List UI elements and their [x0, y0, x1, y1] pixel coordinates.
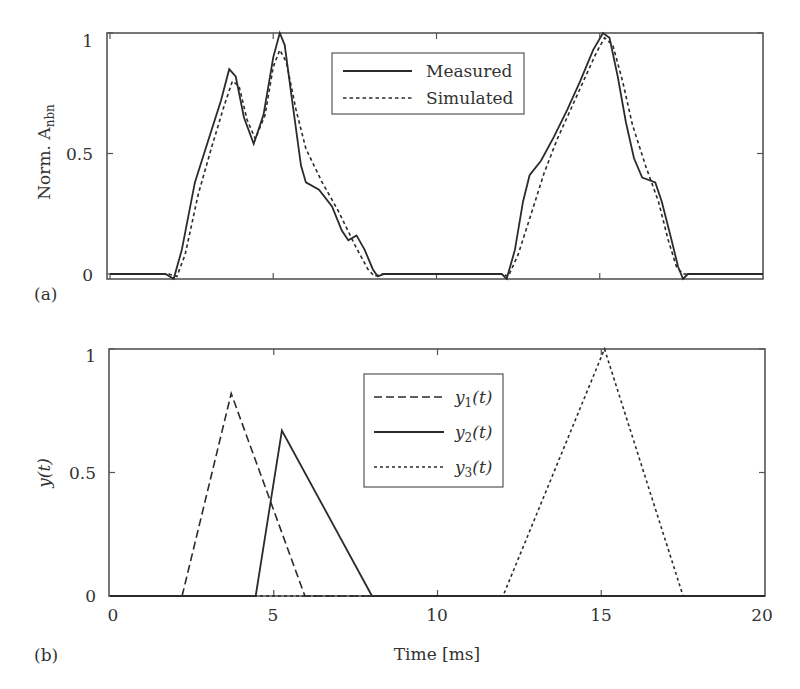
legend-a: Measured Simulated — [332, 53, 524, 114]
ytick-label-0: 0 — [85, 586, 96, 606]
panel-a-yticklabels: 1 0.5 0 — [66, 31, 93, 285]
panel-b-xticklabels: 0 5 10 15 20 — [108, 605, 773, 625]
xtick-label-0: 0 — [108, 605, 119, 625]
panel-a: 1 0.5 0 Norm. Anbn (a) Measured Simulate… — [34, 31, 763, 304]
y-axis-label-a: Norm. Anbn — [34, 104, 57, 200]
xtick-label-15: 15 — [590, 605, 612, 625]
legend-simulated-label: Simulated — [426, 88, 514, 108]
legend-y2-label: y2(t) — [454, 422, 492, 445]
panel-b: 1 0.5 0 0 5 10 15 20 Time [ms] y(t) (b) … — [34, 346, 773, 665]
y-axis-label-b: y(t) — [34, 458, 54, 489]
legend-y1-label: y1(t) — [454, 387, 492, 410]
xtick-label-10: 10 — [426, 605, 448, 625]
legend-b: y1(t) y2(t) y3(t) — [364, 374, 503, 487]
ytick-label-0: 0 — [82, 265, 93, 285]
panel-a-tag: (a) — [34, 284, 57, 304]
ytick-label-1: 1 — [85, 346, 96, 366]
ytick-label-0.5: 0.5 — [66, 144, 93, 164]
figure: 1 0.5 0 Norm. Anbn (a) Measured Simulate… — [0, 0, 800, 689]
xtick-label-20: 20 — [751, 605, 773, 625]
panel-b-tag: (b) — [34, 645, 58, 665]
ytick-label-1: 1 — [82, 31, 93, 51]
ytick-label-0.5: 0.5 — [69, 463, 96, 483]
legend-measured-label: Measured — [426, 61, 512, 81]
legend-y3-label: y3(t) — [454, 457, 492, 480]
x-axis-label: Time [ms] — [394, 644, 480, 664]
panel-b-yticklabels: 1 0.5 0 — [69, 346, 96, 606]
xtick-label-5: 5 — [268, 605, 279, 625]
